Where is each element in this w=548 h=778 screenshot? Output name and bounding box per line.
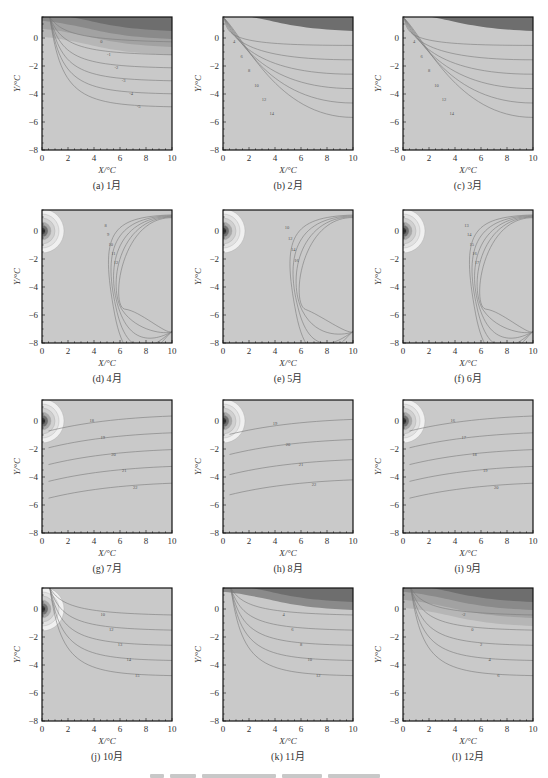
svg-text:12: 12 — [288, 236, 293, 241]
x-axis-label: X/°C — [458, 358, 478, 368]
x-tick-label: 4 — [92, 346, 97, 356]
x-tick-label: 10 — [168, 153, 178, 163]
svg-text:18: 18 — [90, 418, 95, 423]
y-tick-label: −6 — [28, 117, 38, 127]
contour-panel-d: 8910111202468100−2−4−6−8X/°CY/°C — [10, 204, 190, 392]
x-tick-label: 8 — [144, 153, 149, 163]
y-tick-label: 0 — [215, 416, 220, 426]
svg-text:15: 15 — [470, 242, 475, 247]
svg-text:14: 14 — [449, 111, 454, 116]
contour-panel-a: 0-1-2-3-4-502468100−2−4−6−8X/°CY/°C — [10, 11, 190, 199]
svg-text:14: 14 — [126, 657, 131, 662]
panel-caption-i: (i) 9月 — [378, 560, 548, 575]
y-tick-label: −8 — [209, 716, 219, 726]
y-tick-label: −4 — [28, 472, 38, 482]
x-tick-label: 8 — [505, 724, 510, 734]
x-axis-label: X/°C — [278, 548, 298, 558]
svg-text:13: 13 — [464, 223, 469, 228]
svg-text:-2: -2 — [462, 612, 466, 617]
y-tick-label: 0 — [34, 416, 39, 426]
y-tick-label: −8 — [28, 145, 38, 155]
y-tick-label: −6 — [209, 117, 219, 127]
y-tick-label: −2 — [209, 61, 219, 71]
x-tick-label: 4 — [453, 724, 458, 734]
x-tick-label: 0 — [401, 724, 406, 734]
y-axis-label: Y/°C — [373, 74, 383, 92]
y-tick-label: −2 — [389, 254, 399, 264]
figure-caption-illegible — [150, 766, 400, 774]
contour-panel-j: 101213141502468100−2−4−6−8X/°CY/°C — [10, 582, 190, 770]
x-tick-label: 6 — [479, 536, 484, 546]
x-tick-label: 8 — [505, 153, 510, 163]
y-tick-label: −8 — [389, 145, 399, 155]
y-tick-label: 0 — [395, 33, 400, 43]
y-tick-label: −2 — [389, 61, 399, 71]
x-tick-label: 10 — [349, 536, 359, 546]
x-tick-label: 4 — [273, 346, 278, 356]
contour-panel-f: 131415161702468100−2−4−6−8X/°CY/°C — [371, 204, 548, 392]
y-tick-label: −4 — [389, 472, 399, 482]
panel-caption-k: (k) 11月 — [198, 748, 378, 763]
x-tick-label: 0 — [221, 536, 226, 546]
svg-text:18: 18 — [472, 452, 477, 457]
x-tick-label: 6 — [299, 153, 304, 163]
svg-text:16: 16 — [472, 251, 477, 256]
x-tick-label: 4 — [92, 724, 97, 734]
y-tick-label: −6 — [209, 500, 219, 510]
svg-text:14: 14 — [291, 247, 296, 252]
x-tick-label: 6 — [479, 724, 484, 734]
y-tick-label: −8 — [389, 338, 399, 348]
y-tick-label: −4 — [28, 89, 38, 99]
x-tick-label: 8 — [144, 346, 149, 356]
panel-caption-g: (g) 7月 — [17, 560, 197, 575]
x-tick-label: 10 — [529, 346, 539, 356]
x-tick-label: 8 — [505, 536, 510, 546]
y-tick-label: −6 — [28, 688, 38, 698]
svg-text:15: 15 — [135, 673, 140, 678]
svg-text:12: 12 — [442, 97, 447, 102]
x-tick-label: 6 — [479, 346, 484, 356]
contour-panel-l: -2024602468100−2−4−6−8X/°CY/°C — [371, 582, 548, 770]
y-tick-label: −2 — [209, 444, 219, 454]
y-tick-label: −2 — [209, 632, 219, 642]
svg-text:10: 10 — [307, 657, 312, 662]
contour-panel-g: 181920212202468100−2−4−6−8X/°CY/°C — [10, 394, 190, 582]
y-axis-label: Y/°C — [12, 457, 22, 475]
panel-caption-d: (d) 4月 — [17, 370, 197, 385]
y-tick-label: 0 — [395, 604, 400, 614]
svg-text:22: 22 — [133, 485, 138, 490]
y-tick-label: −6 — [389, 500, 399, 510]
svg-text:13: 13 — [118, 642, 123, 647]
y-tick-label: −4 — [209, 282, 219, 292]
y-tick-label: −2 — [28, 632, 38, 642]
x-tick-label: 6 — [118, 536, 123, 546]
x-tick-label: 8 — [325, 724, 330, 734]
svg-text:21: 21 — [122, 468, 127, 473]
x-tick-label: 10 — [529, 724, 539, 734]
svg-text:12: 12 — [262, 97, 267, 102]
x-axis-label: X/°C — [97, 548, 117, 558]
x-tick-label: 4 — [273, 153, 278, 163]
panel-caption-a: (a) 1月 — [17, 177, 197, 192]
y-tick-label: −2 — [28, 61, 38, 71]
y-tick-label: −6 — [389, 310, 399, 320]
x-tick-label: 6 — [118, 724, 123, 734]
x-tick-label: 2 — [247, 153, 252, 163]
contour-panel-c: 46810121402468100−2−4−6−8X/°CY/°C — [371, 11, 548, 199]
y-tick-label: −8 — [28, 528, 38, 538]
x-axis-label: X/°C — [458, 736, 478, 746]
x-tick-label: 0 — [221, 724, 226, 734]
x-axis-label: X/°C — [97, 358, 117, 368]
x-tick-label: 2 — [427, 153, 432, 163]
y-tick-label: −8 — [209, 338, 219, 348]
panel-caption-h: (h) 8月 — [198, 560, 378, 575]
y-tick-label: −8 — [209, 145, 219, 155]
svg-text:10: 10 — [109, 242, 114, 247]
x-tick-label: 8 — [325, 153, 330, 163]
y-tick-label: −2 — [28, 254, 38, 264]
y-tick-label: −8 — [389, 716, 399, 726]
x-tick-label: 4 — [453, 346, 458, 356]
svg-text:19: 19 — [100, 435, 105, 440]
x-axis-label: X/°C — [458, 165, 478, 175]
x-tick-label: 10 — [529, 153, 539, 163]
